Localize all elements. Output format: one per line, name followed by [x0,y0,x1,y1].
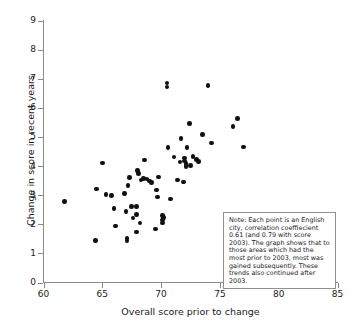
data-point [93,238,98,243]
data-point [168,197,173,202]
data-point [181,180,186,185]
data-point [161,215,166,220]
scatter-plot-figure: 0123456789 606570758085 Overall score pr… [0,0,356,330]
data-point [179,136,184,141]
data-point [155,195,160,200]
note-text: Note: Each point is an English city, cor… [229,217,331,285]
data-point [166,145,171,150]
data-point [154,188,159,193]
data-point [206,83,211,88]
data-point [127,175,132,180]
data-point [122,191,127,196]
data-point [209,141,214,146]
data-point [109,193,114,198]
data-point [235,116,240,121]
data-point [185,145,190,150]
data-point [94,187,99,192]
data-point [188,163,193,168]
data-point [134,212,139,217]
data-point [200,132,205,137]
note-box: Note: Each point is an English city, cor… [223,212,336,289]
data-point [156,175,161,180]
data-point [136,171,141,176]
data-point [138,221,143,226]
data-point [187,121,192,126]
data-point [113,224,118,229]
data-point [125,236,130,241]
data-point [175,178,180,183]
data-point [160,221,165,226]
data-point [100,161,105,166]
data-point [172,155,177,160]
data-point [134,204,139,209]
data-point [112,206,117,211]
data-point [149,180,154,185]
data-point [153,227,158,232]
y-axis-title: Change in score in recent years [25,51,36,251]
data-point [124,209,129,214]
data-point [241,145,246,150]
data-point [134,230,139,235]
x-axis-title: Overall score prior to change [43,306,338,317]
data-point [231,124,236,129]
data-point [126,183,131,188]
data-point [142,158,147,163]
data-point [104,192,109,197]
data-point [165,85,170,90]
data-point [62,199,67,204]
data-point [196,159,201,164]
